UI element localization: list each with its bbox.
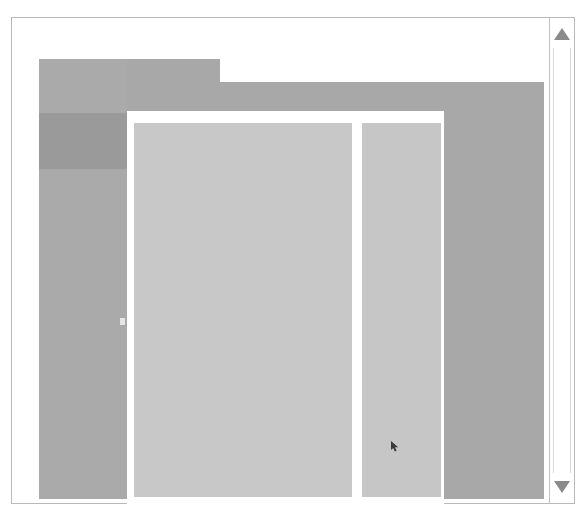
navigation-sidebar[interactable] xyxy=(39,59,127,499)
vertical-scrollbar[interactable] xyxy=(549,18,574,503)
detail-panel[interactable] xyxy=(362,123,441,497)
mouse-cursor-icon xyxy=(390,439,401,451)
scroll-up-button[interactable] xyxy=(550,22,574,46)
window-frame xyxy=(11,17,575,504)
triangle-down-icon xyxy=(554,481,570,493)
sidebar-item-2[interactable] xyxy=(39,113,127,169)
sidebar-item-1[interactable] xyxy=(39,59,127,113)
scroll-down-button[interactable] xyxy=(550,475,574,499)
active-tab-notch[interactable] xyxy=(220,59,544,82)
triangle-up-icon xyxy=(554,28,570,40)
scrollbar-track[interactable] xyxy=(553,48,571,473)
main-content-panel[interactable] xyxy=(134,123,352,497)
sidebar-resize-handle[interactable] xyxy=(120,318,125,325)
screenshot-root xyxy=(0,0,588,520)
sidebar-item-3[interactable] xyxy=(39,169,127,499)
